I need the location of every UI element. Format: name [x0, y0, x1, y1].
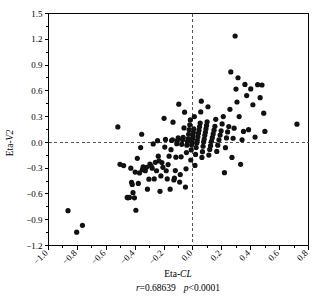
data-point: [233, 87, 238, 92]
data-point: [259, 82, 264, 87]
data-point: [262, 129, 267, 134]
data-point: [65, 208, 70, 213]
x-tick-label-group: −0.4: [118, 247, 137, 266]
y-tick-label: 0.3: [31, 112, 43, 122]
data-point: [145, 187, 150, 192]
data-point: [250, 102, 255, 107]
data-point: [212, 124, 217, 129]
x-tick-label-group: 0.4: [237, 247, 252, 262]
data-point: [258, 95, 263, 100]
data-point: [238, 162, 243, 167]
x-axis-title-plain: Eta-: [164, 269, 180, 279]
data-point: [221, 114, 226, 119]
data-point: [133, 169, 138, 174]
x-tick-label-group: −0.6: [89, 247, 108, 266]
data-point: [229, 155, 234, 160]
data-point: [239, 137, 244, 142]
data-point-series: [65, 33, 299, 234]
y-axis-title: Eta-V2: [5, 130, 15, 157]
y-tick-label: 1.5: [31, 9, 43, 19]
data-point: [158, 173, 163, 178]
data-point: [155, 138, 160, 143]
data-point: [228, 69, 233, 74]
data-point: [181, 125, 186, 130]
data-point: [189, 147, 194, 152]
x-tick-label-group: 0.2: [208, 248, 223, 263]
x-tick-label: −0.8: [60, 247, 79, 266]
data-point: [234, 99, 239, 104]
data-point: [173, 155, 178, 160]
scatter-plot-svg: 1.51.20.90.60.30.0−0.3−0.6−0.9−1.2 −1.0−…: [0, 0, 322, 297]
data-point: [80, 223, 85, 228]
x-tick-label-group: 0.0: [179, 247, 194, 262]
data-point: [179, 154, 184, 159]
data-point: [188, 117, 193, 122]
data-point: [242, 82, 247, 87]
data-point: [166, 162, 171, 167]
data-point: [261, 111, 266, 116]
data-point: [159, 160, 164, 165]
x-tick-label: 0.4: [237, 247, 252, 262]
data-point: [213, 117, 218, 122]
data-point: [216, 137, 221, 142]
data-point: [170, 120, 175, 125]
data-point: [156, 154, 161, 159]
data-point: [151, 141, 156, 146]
data-point: [138, 145, 143, 150]
data-point: [208, 143, 213, 148]
scatter-plot-figure: 1.51.20.90.60.30.0−0.3−0.6−0.9−1.2 −1.0−…: [0, 0, 322, 297]
data-point: [172, 175, 177, 180]
data-point: [237, 114, 242, 119]
data-point: [130, 190, 135, 195]
data-point: [219, 128, 224, 133]
data-point: [205, 119, 210, 124]
data-point: [168, 187, 173, 192]
data-point: [193, 152, 198, 157]
data-point: [192, 114, 197, 119]
y-axis-title-plain: Eta-: [5, 140, 15, 156]
data-point: [133, 208, 138, 213]
svg-text:Eta-V2: Eta-V2: [5, 130, 15, 157]
data-point: [139, 132, 144, 137]
data-point: [184, 150, 189, 155]
x-tick-label-group: −0.2: [147, 248, 166, 267]
data-point: [187, 122, 192, 127]
data-point: [177, 179, 182, 184]
data-point: [233, 33, 238, 38]
data-point: [136, 181, 141, 186]
y-tick-label: 0.9: [31, 60, 43, 70]
data-point: [173, 168, 178, 173]
x-tick-label-group: −0.8: [60, 247, 79, 266]
data-point: [176, 102, 181, 107]
svg-text:r=0.68639p<0.0001: r=0.68639p<0.0001: [136, 283, 220, 293]
data-point: [244, 93, 249, 98]
data-point: [152, 176, 157, 181]
data-point: [163, 137, 168, 142]
data-point: [115, 124, 120, 129]
data-point: [146, 177, 151, 182]
data-point: [167, 154, 172, 159]
reference-lines: [49, 14, 309, 246]
data-point: [200, 149, 205, 154]
data-point: [227, 107, 232, 112]
data-point: [154, 168, 159, 173]
x-tick-label: 0.0: [179, 247, 194, 262]
data-point: [192, 163, 197, 168]
data-point: [232, 126, 237, 131]
data-point: [198, 109, 203, 114]
y-tick-label: −0.6: [26, 189, 43, 199]
data-point: [164, 168, 169, 173]
y-axis-title-italic: V2: [5, 130, 15, 141]
x-tick-label: −0.4: [118, 247, 137, 266]
y-tick-label: −1.2: [26, 241, 42, 251]
data-point: [199, 99, 204, 104]
data-point: [162, 145, 167, 150]
data-point: [178, 172, 183, 177]
data-point: [246, 127, 251, 132]
data-point: [183, 166, 188, 171]
data-point: [224, 135, 229, 140]
data-point: [121, 163, 126, 168]
data-point: [157, 189, 162, 194]
data-point: [294, 122, 299, 127]
y-tick-label: 0.6: [31, 86, 43, 96]
